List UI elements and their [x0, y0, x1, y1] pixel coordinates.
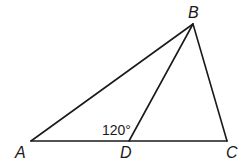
label-a: A	[14, 144, 26, 161]
label-b: B	[188, 4, 199, 21]
segment-bd	[129, 24, 193, 141]
label-c: C	[226, 144, 238, 161]
triangle-diagram: B A D C 120°	[0, 0, 248, 168]
label-d: D	[120, 144, 132, 161]
angle-label-adb: 120°	[102, 122, 131, 138]
segment-bc	[193, 24, 227, 141]
